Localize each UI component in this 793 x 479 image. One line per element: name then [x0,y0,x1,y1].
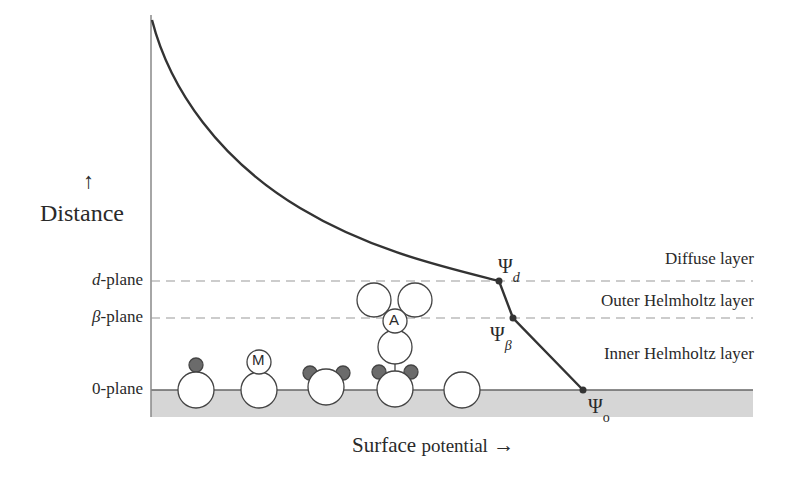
psi-o-point [580,387,587,394]
psi-o-label: Ψo [588,395,610,422]
double-layer-diagram [0,0,793,479]
zero-plane-label: 0-plane [43,379,143,399]
beta-plane-suffix: -plane [101,307,143,326]
psi-d-label: Ψd [498,255,520,282]
up-arrow-icon: ↑ [83,168,94,194]
potential-curve [152,20,583,390]
right-arrow-icon: → [493,433,514,457]
y-axis-label: Distance [40,200,124,227]
d-plane-prefix: d [92,270,101,289]
psi-beta-point [510,315,517,322]
psi-subscript: o [603,410,610,425]
psi-subscript: β [505,338,512,353]
psi-symbol: Ψ [588,395,603,417]
species-m-label: M [252,351,265,368]
species-a-label: A [389,311,399,328]
psi-beta-label: Ψβ [490,323,512,350]
x-axis-label-rest: potential [421,435,487,456]
inner-helmholtz-layer-label: Inner Helmholtz layer [494,344,754,364]
zero-plane-suffix: 0-plane [92,379,143,398]
x-axis-label: Surface potential → [352,433,514,458]
outer-helmholtz-layer-label: Outer Helmholtz layer [494,291,754,311]
beta-plane-label: β-plane [43,307,143,327]
diffuse-layer-label: Diffuse layer [494,249,754,269]
x-axis-label-main: Surface [352,433,416,457]
d-plane-label: d-plane [43,270,143,290]
psi-subscript: d [513,270,520,285]
psi-symbol: Ψ [498,255,513,277]
beta-plane-prefix: β [92,307,100,326]
psi-symbol: Ψ [490,323,505,345]
d-plane-suffix: -plane [101,270,143,289]
